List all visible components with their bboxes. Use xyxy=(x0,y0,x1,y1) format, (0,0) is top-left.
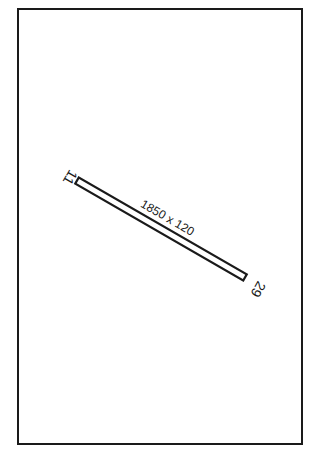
runway-strip xyxy=(75,177,247,280)
runway-end-29-label: 29 xyxy=(247,279,269,301)
runway-diagram: 1850 x 120 11 29 xyxy=(0,0,312,463)
runway: 1850 x 120 xyxy=(75,163,255,280)
